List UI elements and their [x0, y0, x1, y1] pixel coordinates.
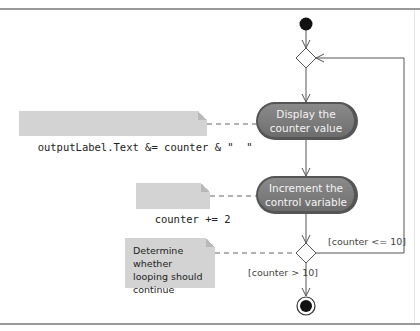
note-fold-corner-icon [198, 111, 207, 120]
note-fold-corner-icon [201, 183, 210, 192]
initial-node [300, 18, 313, 31]
note-decision-line-2: looping should [133, 270, 207, 283]
note-fold-corner-icon [206, 238, 215, 247]
note-decision-line-1: Determine whether [133, 244, 207, 270]
merge-node [296, 48, 316, 68]
action-increment-line-2: control variable [265, 195, 347, 209]
guard-loop-continue: [counter <= 10] [328, 236, 406, 247]
action-display-line-2: counter value [270, 121, 342, 135]
note-decision-comment: Determine whether looping should continu… [125, 238, 215, 288]
note-increment-statement: counter += 2 [136, 183, 210, 209]
decision-node [296, 243, 316, 263]
note-output-statement: outputLabel.Text &= counter & " " [19, 111, 207, 136]
action-display-counter: Display the counter value [256, 102, 358, 140]
note-output-statement-text: outputLabel.Text &= counter & " " [38, 141, 253, 153]
action-increment-variable: Increment the control variable [256, 176, 358, 214]
action-display-line-1: Display the [276, 107, 335, 121]
note-increment-statement-text: counter += 2 [155, 213, 231, 225]
note-decision-line-3: continue [133, 283, 207, 296]
action-increment-line-1: Increment the [269, 181, 343, 195]
final-node [300, 300, 312, 312]
guard-loop-exit: [counter > 10] [248, 267, 318, 278]
flow-loop-back [316, 58, 404, 253]
